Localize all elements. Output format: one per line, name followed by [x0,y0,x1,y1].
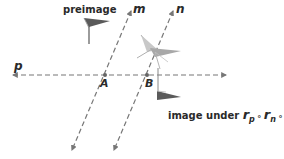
preimage-label: preimage [63,4,116,15]
line-m-label: m [133,2,146,16]
image-flag-icon [157,68,181,100]
line-n-label: n [176,2,185,16]
point-b-label: B [145,77,153,90]
point-a-label: A [100,77,109,90]
diagram-canvas [0,0,284,159]
intermediate-flag-n-icon [150,48,181,69]
reflection-diagram: preimage m n p A B image under rp∘rn∘rm [0,0,284,159]
compose-op-2: ∘ [276,112,284,121]
reflection-r-n: rn [264,107,276,122]
line-p-label: p [14,59,23,73]
image-label-prefix: image under [168,110,239,121]
preimage-flag-icon [84,18,110,44]
reflection-r-p: rp [243,107,255,122]
line-n [114,11,173,150]
image-label: image under rp∘rn∘rm [168,107,284,124]
compose-op-1: ∘ [255,112,264,121]
